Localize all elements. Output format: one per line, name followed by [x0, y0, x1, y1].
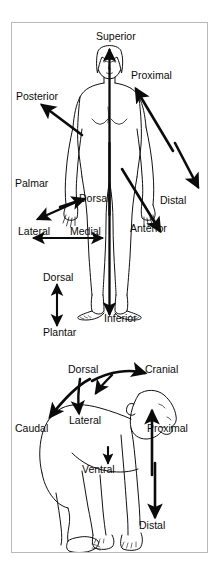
label-cranial: Cranial	[145, 364, 178, 375]
label-lateral-ape: Lateral	[69, 415, 101, 426]
label-medial: Medial	[70, 226, 101, 237]
label-lateral: Lateral	[18, 226, 50, 237]
label-distal-ape: Distal	[139, 520, 165, 531]
label-distal: Distal	[160, 195, 186, 206]
ape-direction-arrows	[50, 371, 155, 517]
top-caption-strip	[0, 0, 219, 10]
label-palmar: Palmar	[15, 178, 48, 189]
arrow-lateral-ape	[78, 379, 80, 413]
label-inferior: Inferior	[104, 313, 137, 324]
label-superior: Superior	[96, 31, 136, 42]
label-caudal: Caudal	[15, 423, 48, 434]
arrow-palmar	[38, 203, 74, 219]
label-proximal-ape: Proximal	[147, 423, 188, 434]
label-proximal: Proximal	[131, 70, 172, 81]
human-direction-arrows	[34, 50, 198, 325]
label-dorsal-ape: Dorsal	[68, 364, 98, 375]
figure-frame: Superior Proximal Posterior Palmar Dorsa…	[11, 22, 208, 553]
label-ventral: Ventral	[82, 464, 115, 475]
arrow-cranial	[92, 371, 145, 381]
label-posterior: Posterior	[16, 91, 58, 102]
label-plantar: Plantar	[43, 327, 76, 338]
arrow-caudal	[50, 379, 90, 417]
label-anterior: Anterior	[130, 223, 167, 234]
figure-stage: Superior Proximal Posterior Palmar Dorsa…	[12, 23, 207, 552]
label-dorsal-hand: Dorsal	[79, 193, 109, 204]
arrow-distal	[175, 143, 198, 187]
label-dorsal-foot: Dorsal	[43, 272, 73, 283]
